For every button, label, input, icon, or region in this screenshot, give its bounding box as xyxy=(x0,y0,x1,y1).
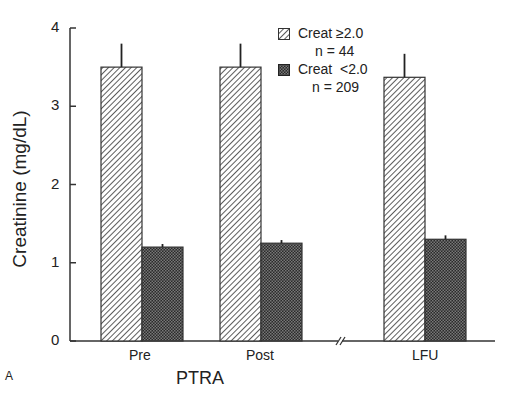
y-tick-label: 3 xyxy=(51,96,59,113)
legend-entry-label: Creat ≥2.0 xyxy=(298,25,363,41)
legend-swatch-hatch xyxy=(278,28,292,42)
x-category-label: Post xyxy=(246,347,274,363)
bar-creat-lt-2 xyxy=(261,243,302,341)
y-tick-label: 1 xyxy=(51,253,59,270)
bar-creat-ge-2 xyxy=(101,67,142,341)
legend-entry-n: n = 209 xyxy=(312,79,359,95)
x-axis-label: PTRA xyxy=(176,368,224,389)
legend-entry-label: Creat <2.0 xyxy=(298,61,368,77)
y-axis-label: Creatinine (mg/dL) xyxy=(9,89,31,289)
bar-creat-lt-2 xyxy=(142,247,183,341)
x-category-label: Pre xyxy=(129,347,151,363)
panel-label: A xyxy=(5,369,13,383)
y-tick-label: 4 xyxy=(51,18,59,35)
bar-creat-ge-2 xyxy=(384,77,425,341)
bar-chart xyxy=(0,0,516,399)
y-tick-label: 2 xyxy=(51,175,59,192)
legend-entry-n: n = 44 xyxy=(315,43,354,59)
y-tick-label: 0 xyxy=(51,331,59,348)
x-category-label: LFU xyxy=(412,347,438,363)
bar-creat-lt-2 xyxy=(425,239,466,341)
legend-swatch-checker xyxy=(278,64,292,78)
bar-creat-ge-2 xyxy=(220,67,261,341)
